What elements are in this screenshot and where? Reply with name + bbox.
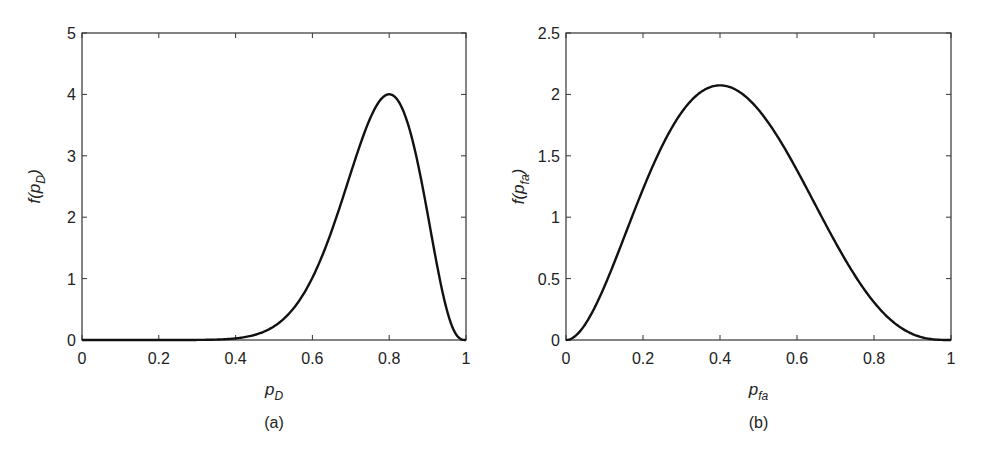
x-tick-label: 0.4: [224, 350, 246, 367]
chart-panel-b: 00.20.40.60.81 00.511.522.5 pfa f(pfa) (…: [509, 25, 956, 431]
x-axis-label-main: p: [264, 380, 274, 399]
y-tick-label: 3: [67, 148, 76, 165]
y-tick-label: 0: [67, 332, 76, 349]
y-tick-label: 2: [551, 86, 560, 103]
tick-marks: [566, 33, 951, 340]
x-tick-label: 1: [947, 350, 956, 367]
x-tick-label: 0.8: [378, 350, 400, 367]
y-axis-label-suffix: ): [25, 169, 44, 177]
y-axis-label-prefix: f(p: [25, 184, 44, 204]
figure: 00.20.40.60.81 012345 pD f(pD) (a) 00.20…: [0, 0, 983, 456]
y-axis-label-suffix: ): [509, 169, 528, 177]
x-tick-label: 0.6: [786, 350, 808, 367]
x-tick-label: 0.6: [301, 350, 323, 367]
y-tick-label: 5: [67, 25, 76, 42]
tick-marks: [82, 33, 466, 340]
y-axis-label: f(pD): [25, 169, 48, 203]
y-tick-label: 1: [551, 209, 560, 226]
x-axis-label-main: p: [748, 380, 758, 399]
y-tick-labels: 012345: [67, 25, 76, 349]
panel-label: (a): [264, 414, 284, 431]
x-tick-label: 0.8: [863, 350, 885, 367]
x-tick-label: 0.4: [709, 350, 731, 367]
y-axis-label-sub: fa: [518, 174, 532, 184]
x-tick-label: 0: [562, 350, 571, 367]
pdf-curve: [566, 85, 951, 340]
x-axis-label-sub: fa: [758, 389, 768, 403]
x-axis-label: pfa: [748, 380, 769, 403]
y-tick-label: 4: [67, 86, 76, 103]
plot-frame: [566, 33, 951, 340]
plot-frame: [82, 33, 466, 340]
y-tick-label: 2: [67, 209, 76, 226]
y-tick-labels: 00.511.522.5: [538, 25, 560, 349]
y-tick-label: 1.5: [538, 148, 560, 165]
y-tick-label: 1: [67, 271, 76, 288]
y-axis-label: f(pfa): [509, 169, 532, 205]
y-axis-label-prefix: f(p: [509, 184, 528, 204]
y-axis-label-sub: D: [34, 175, 48, 184]
x-tick-labels: 00.20.40.60.81: [78, 350, 471, 367]
x-tick-label: 0.2: [632, 350, 654, 367]
y-tick-label: 0: [551, 332, 560, 349]
x-axis-label-sub: D: [274, 389, 283, 403]
x-tick-label: 1: [462, 350, 471, 367]
x-tick-label: 0: [78, 350, 87, 367]
pdf-curve: [82, 94, 466, 340]
panel-label: (b): [749, 414, 769, 431]
x-tick-label: 0.2: [148, 350, 170, 367]
chart-panel-a: 00.20.40.60.81 012345 pD f(pD) (a): [25, 25, 471, 431]
y-tick-label: 2.5: [538, 25, 560, 42]
y-tick-label: 0.5: [538, 271, 560, 288]
x-axis-label: pD: [264, 380, 283, 403]
x-tick-labels: 00.20.40.60.81: [562, 350, 956, 367]
